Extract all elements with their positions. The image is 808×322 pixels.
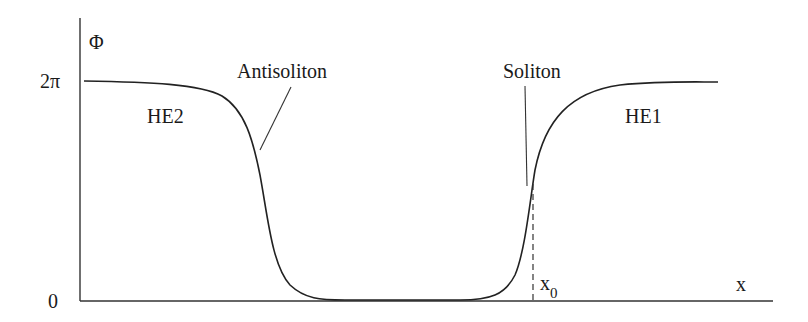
x0-label-main: x: [540, 272, 550, 294]
y-axis-label: Φ: [89, 31, 104, 53]
x0-label-subscript: 0: [550, 285, 558, 301]
region-label-he2: HE2: [147, 105, 184, 127]
antisoliton-pointer: [260, 87, 291, 150]
y-tick-0: 0: [48, 290, 58, 312]
soliton-pointer: [525, 86, 527, 186]
x0-label: x0: [540, 272, 558, 301]
soliton-label: Soliton: [503, 60, 561, 82]
antisoliton-label: Antisoliton: [237, 60, 327, 82]
soliton-diagram: Φ x 2π 0 HE2 HE1 Antisoliton Soliton x0: [0, 0, 808, 322]
region-label-he1: HE1: [625, 105, 662, 127]
x-axis-label: x: [736, 273, 746, 295]
y-tick-2pi: 2π: [40, 70, 60, 92]
